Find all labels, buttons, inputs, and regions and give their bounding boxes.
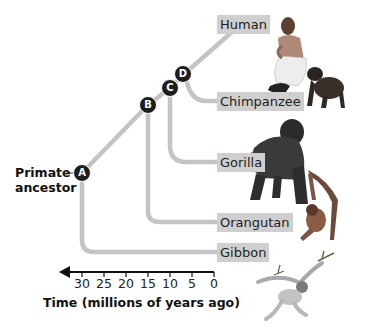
- axis-tick: 30: [74, 276, 90, 291]
- species-label-gibbon: Gibbon: [217, 243, 269, 262]
- human-illustration: [268, 17, 306, 93]
- axis-tick: 20: [118, 276, 134, 291]
- species-label-orangutan: Orangutan: [217, 213, 293, 232]
- axis-title: Time (millions of years ago): [43, 295, 240, 310]
- gibbon-illustration: [258, 251, 334, 319]
- gibbon-branch: [82, 173, 220, 252]
- species-label-human: Human: [217, 15, 270, 34]
- axis-tick: 5: [188, 276, 196, 291]
- species-label-gorilla: Gorilla: [217, 153, 265, 172]
- axis-tick: 10: [162, 276, 178, 291]
- axis-tick: 0: [210, 276, 218, 291]
- orangutan-illustration: [300, 170, 338, 241]
- root-label-line-1: Primate: [15, 165, 76, 180]
- phylogeny-diagram: A B C D Primate ancestor Human Chimpanze…: [0, 0, 368, 327]
- root-label-line-2: ancestor: [15, 180, 76, 195]
- node-c: C: [161, 79, 179, 97]
- axis-tick: 25: [96, 276, 112, 291]
- tree-branches: [0, 0, 368, 327]
- species-label-chimpanzee: Chimpanzee: [217, 92, 304, 111]
- node-d: D: [174, 65, 192, 83]
- node-b: B: [139, 96, 157, 114]
- root-label: Primate ancestor: [15, 165, 76, 195]
- axis-tick: 15: [140, 276, 156, 291]
- chimpanzee-branch: [186, 78, 220, 101]
- chimpanzee-illustration: [307, 67, 345, 108]
